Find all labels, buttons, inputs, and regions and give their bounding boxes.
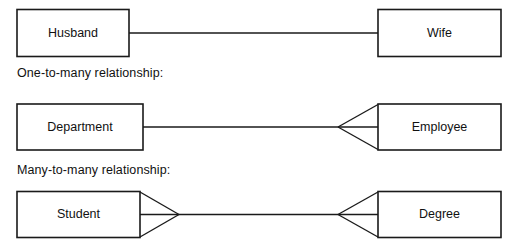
crowfoot-degree (338, 192, 378, 237)
relationship-row-one-to-many: Department Employee (17, 104, 501, 150)
caption-one-to-many-relationship: One-to-many relationship: (17, 66, 163, 80)
entity-label-husband: Husband (48, 26, 98, 40)
entity-box-department[interactable]: Department (17, 104, 143, 150)
entity-label-degree: Degree (419, 207, 460, 221)
crowfoot-employee (338, 105, 378, 150)
relationship-row-one-to-one: Husband Wife (17, 10, 501, 57)
er-diagram: Husband Wife Department Employe (0, 0, 524, 250)
crowfoot-student (140, 192, 179, 237)
entity-label-student: Student (57, 207, 101, 221)
entity-box-wife[interactable]: Wife (378, 10, 501, 57)
relationship-row-many-to-many: Student Degree (17, 192, 501, 238)
entity-box-employee[interactable]: Employee (378, 104, 501, 150)
er-diagram-canvas: Husband Wife Department Employe (0, 0, 524, 250)
entity-label-department: Department (47, 120, 113, 134)
entity-box-husband[interactable]: Husband (17, 10, 129, 57)
caption-many-to-many-relationship: Many-to-many relationship: (17, 163, 170, 177)
entity-label-wife: Wife (427, 26, 452, 40)
entity-box-degree[interactable]: Degree (378, 192, 501, 238)
entity-label-employee: Employee (412, 120, 468, 134)
entity-box-student[interactable]: Student (17, 192, 140, 238)
